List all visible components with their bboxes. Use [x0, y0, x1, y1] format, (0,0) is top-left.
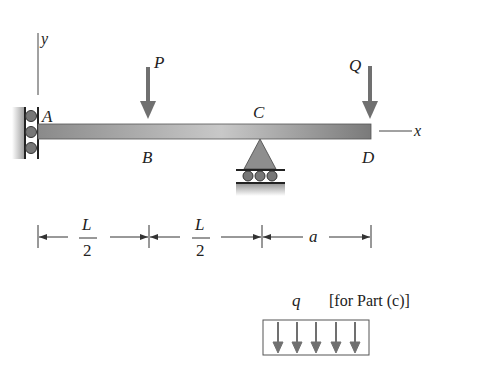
load-p-label: P — [153, 53, 164, 72]
dimension-ab: L 2 — [79, 215, 97, 260]
dim-ab-denominator: 2 — [83, 241, 92, 260]
load-p-arrow: P — [140, 53, 164, 119]
dim-bc-denominator: 2 — [196, 241, 205, 260]
dimension-bc: L 2 — [192, 215, 210, 260]
y-axis-label: y — [39, 30, 49, 48]
roller-support-c — [236, 139, 285, 196]
dim-bc-numerator: L — [194, 215, 204, 234]
beam — [38, 124, 371, 139]
y-axis: y — [38, 30, 49, 95]
dim-cd-label: a — [309, 227, 318, 246]
distributed-load-legend: q [for Part (c)] — [263, 291, 410, 355]
dim-ab-numerator: L — [81, 215, 91, 234]
part-c-note: [for Part (c)] — [329, 292, 410, 310]
beam-diagram: y x A B C D P Q — [0, 0, 480, 367]
load-q-label: Q — [349, 56, 361, 75]
point-label-b: B — [142, 148, 153, 167]
point-label-a: A — [41, 107, 53, 126]
roller-support-a — [12, 107, 38, 159]
load-q-arrow: Q — [349, 56, 378, 119]
point-label-d: D — [361, 148, 375, 167]
point-label-c: C — [253, 103, 265, 122]
distributed-load-label: q — [292, 291, 301, 310]
x-axis: x — [379, 122, 421, 139]
x-axis-label: x — [413, 122, 421, 139]
